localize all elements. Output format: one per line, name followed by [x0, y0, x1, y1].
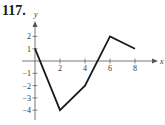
axes: xy — [22, 10, 164, 120]
x-tick-label: 4 — [83, 64, 87, 73]
ticks: 246821−1−2−3−4 — [22, 32, 137, 115]
x-tick-label: 6 — [108, 64, 112, 73]
y-tick-label: 2 — [27, 32, 31, 41]
x-tick-label: 2 — [58, 64, 62, 73]
x-axis-arrow-icon — [152, 59, 158, 64]
x-axis-label: x — [159, 57, 164, 66]
y-tick-label: −1 — [22, 69, 31, 78]
x-tick-label: 8 — [133, 64, 137, 73]
y-tick-label: −3 — [22, 94, 31, 103]
y-axis-label: y — [33, 10, 38, 19]
y-tick-label: 1 — [27, 45, 31, 54]
y-tick-label: −2 — [22, 82, 31, 91]
graph: xy 246821−1−2−3−4 — [0, 0, 165, 125]
y-axis-arrow-icon — [33, 21, 38, 27]
y-tick-label: −4 — [22, 106, 31, 115]
function-line — [35, 36, 135, 110]
